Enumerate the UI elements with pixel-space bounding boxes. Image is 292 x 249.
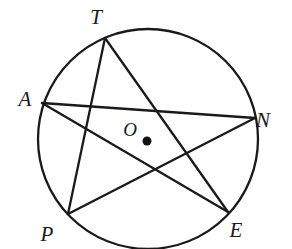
- vertex-label-t: T: [90, 5, 103, 29]
- vertex-label-a: A: [17, 87, 32, 111]
- chord-p-n: [68, 118, 255, 214]
- vertex-label-n: N: [255, 108, 271, 132]
- center-point-label: O: [123, 119, 137, 140]
- center-point-dot: [143, 137, 152, 146]
- vertex-label-e: E: [229, 218, 243, 242]
- vertex-label-p: P: [40, 222, 54, 246]
- chord-t-p: [68, 38, 105, 214]
- star-chords: [42, 38, 255, 214]
- chord-n-a: [42, 103, 255, 118]
- star-in-circle-diagram: O TANPE: [0, 0, 292, 249]
